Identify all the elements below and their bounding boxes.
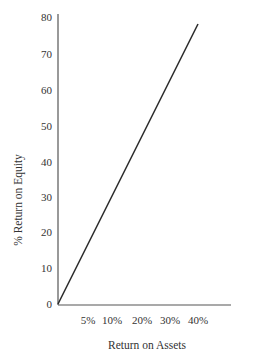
- x-axis-label: Return on Assets: [108, 339, 186, 351]
- x-tick: 10%: [102, 314, 122, 326]
- chart: 0 10 20 30 40 50 60 70 80 5% 10% 20% 30%…: [0, 0, 268, 355]
- y-tick: 40: [41, 156, 53, 168]
- series-line: [58, 24, 198, 304]
- y-tick: 50: [41, 120, 53, 132]
- y-tick: 60: [41, 84, 53, 96]
- y-tick: 80: [41, 11, 53, 23]
- y-tick: 20: [41, 226, 53, 238]
- y-tick-labels: 0 10 20 30 40 50 60 70 80: [41, 11, 53, 310]
- y-tick: 70: [41, 48, 53, 60]
- x-tick: 5%: [81, 314, 96, 326]
- y-tick: 10: [41, 262, 53, 274]
- x-tick-labels: 5% 10% 20% 30% 40%: [81, 314, 208, 326]
- x-tick: 20%: [132, 314, 152, 326]
- y-tick: 0: [47, 298, 53, 310]
- y-tick: 30: [41, 191, 53, 203]
- y-axis-label: % Return on Equity: [12, 154, 25, 246]
- x-tick: 40%: [188, 314, 208, 326]
- x-tick: 30%: [160, 314, 180, 326]
